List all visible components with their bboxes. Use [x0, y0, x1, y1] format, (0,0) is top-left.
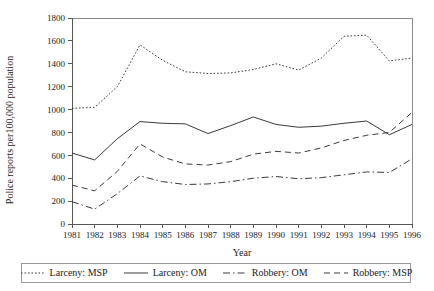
x-tick-label: 1981 [63, 230, 81, 240]
x-tick-label: 1993 [335, 230, 354, 240]
x-tick-label: 1992 [312, 230, 330, 240]
series-line-robbery-om [72, 159, 412, 209]
series-line-larceny-msp [72, 35, 412, 108]
y-axis-title: Police reports per100,000 population [4, 56, 15, 204]
legend-swatch-solid [123, 269, 149, 277]
legend-item: Larceny: OM [123, 268, 207, 278]
y-axis-ticks: 020040060080010001200140016001800 [47, 13, 72, 229]
x-tick-label: 1982 [86, 230, 104, 240]
x-tick-label: 1991 [290, 230, 308, 240]
figure: 020040060080010001200140016001800 198119… [0, 0, 434, 291]
x-tick-label: 1996 [403, 230, 422, 240]
x-tick-label: 1994 [358, 230, 377, 240]
y-tick-label: 200 [52, 196, 66, 206]
y-tick-label: 800 [52, 128, 66, 138]
y-tick-label: 1400 [47, 59, 66, 69]
y-tick-label: 1200 [47, 82, 66, 92]
legend-swatch-dotted [20, 269, 46, 277]
x-tick-label: 1985 [154, 230, 173, 240]
chart-legend: Larceny: MSPLarceny: OMRobbery: OMRobber… [21, 263, 411, 283]
legend-label: Robbery: MSP [353, 268, 413, 278]
x-tick-label: 1995 [380, 230, 399, 240]
x-axis-title: Year [233, 247, 252, 258]
x-tick-label: 1983 [108, 230, 127, 240]
legend-label: Larceny: OM [153, 268, 207, 278]
x-tick-label: 1987 [199, 230, 218, 240]
y-tick-label: 0 [61, 219, 66, 229]
x-tick-label: 1984 [131, 230, 150, 240]
legend-item: Robbery: MSP [323, 268, 413, 278]
y-tick-label: 400 [52, 173, 66, 183]
y-tick-label: 600 [52, 151, 66, 161]
y-tick-label: 1600 [47, 36, 66, 46]
x-axis-ticks: 1981198219831984198519861987198819891990… [63, 224, 422, 240]
legend-item: Robbery: OM [222, 268, 308, 278]
legend-swatch-dashdot [222, 269, 248, 277]
x-tick-label: 1990 [267, 230, 286, 240]
series-line-larceny-om [72, 117, 412, 160]
x-tick-label: 1988 [222, 230, 241, 240]
x-tick-label: 1989 [244, 230, 263, 240]
legend-label: Robbery: OM [252, 268, 308, 278]
legend-item: Larceny: MSP [20, 268, 108, 278]
legend-swatch-dashed [323, 269, 349, 277]
legend-label: Larceny: MSP [50, 268, 108, 278]
line-chart: 020040060080010001200140016001800 198119… [0, 0, 434, 258]
chart-plot-area: 020040060080010001200140016001800 198119… [0, 0, 434, 258]
y-tick-label: 1000 [47, 105, 66, 115]
y-tick-label: 1800 [47, 13, 66, 23]
data-series-group [72, 35, 412, 209]
series-line-robbery-msp [72, 112, 412, 190]
x-tick-label: 1986 [176, 230, 195, 240]
